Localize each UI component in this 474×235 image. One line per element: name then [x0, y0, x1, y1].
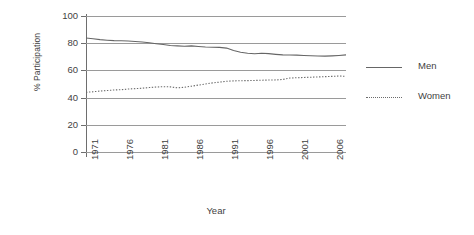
y-tick-label-60: 60: [50, 65, 78, 75]
x-tick-label-1986: 1986: [194, 120, 205, 160]
x-tick-label-1971: 1971: [89, 120, 100, 160]
x-tick-label-1981: 1981: [159, 120, 170, 160]
chart-legend: Men Women: [366, 58, 470, 118]
x-axis-title: Year: [86, 205, 346, 216]
legend-swatch-men: [366, 67, 402, 68]
x-tick-label-1976: 1976: [124, 120, 135, 160]
y-axis-title: % Participation: [32, 0, 42, 137]
x-tick-label-2006: 2006: [334, 120, 345, 160]
legend-label-women: Women: [418, 90, 451, 101]
men-series-line: [86, 38, 346, 56]
line-chart-figure: % Participation 100 80 60 40 20 0 1971 1…: [0, 0, 474, 235]
women-series-line: [86, 76, 346, 92]
x-tick-label-1991: 1991: [229, 120, 240, 160]
y-tick-label-40: 40: [50, 93, 78, 103]
y-tick-label-0: 0: [50, 147, 78, 157]
x-tick-label-2001: 2001: [299, 120, 310, 160]
legend-item-men: Men: [366, 58, 470, 88]
legend-swatch-women: [366, 97, 402, 98]
y-tick-label-20: 20: [50, 120, 78, 130]
legend-label-men: Men: [418, 60, 436, 71]
x-tick-label-1996: 1996: [264, 120, 275, 160]
y-tick-label-100: 100: [50, 11, 78, 21]
legend-item-women: Women: [366, 88, 470, 118]
y-tick-label-80: 80: [50, 38, 78, 48]
